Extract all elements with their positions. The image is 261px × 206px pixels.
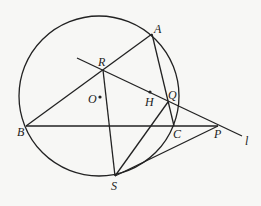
segment-sp [115,126,218,176]
label-r: R [97,55,106,69]
label-l: l [245,134,249,148]
segment-ab [26,34,152,126]
label-q: Q [168,88,177,102]
label-o: O [88,92,97,106]
label-s: S [111,179,117,193]
geometry-diagram: A B C P S R Q H O l [0,0,261,206]
point-h-dot [148,90,151,93]
label-a: A [153,22,162,36]
point-o-dot [98,95,101,98]
label-b: B [17,125,25,139]
label-c: C [173,127,182,141]
label-h: H [144,95,155,109]
segment-qs [115,102,168,176]
segments [26,34,218,176]
label-p: P [213,127,222,141]
segment-rs [103,70,115,176]
line-l [77,58,242,136]
